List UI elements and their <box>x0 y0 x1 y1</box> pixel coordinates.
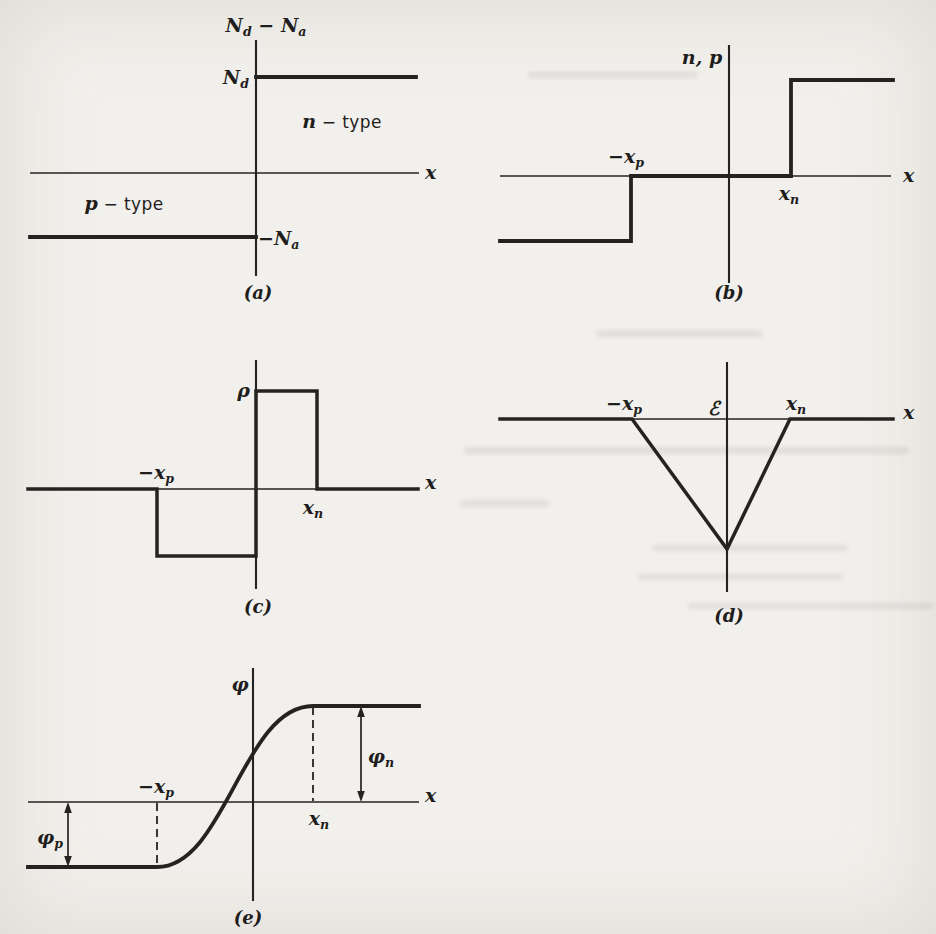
text-part: n <box>385 755 394 770</box>
text-part: φ <box>37 826 54 848</box>
panel-b-lines <box>500 45 893 283</box>
panel-e-lines <box>28 668 419 901</box>
arrowhead-up-icon <box>64 802 72 813</box>
b-step-curve <box>500 80 893 241</box>
text-part: n <box>314 506 323 521</box>
text-part: p <box>709 46 722 68</box>
text-part: n <box>320 817 329 832</box>
e-phi-n-label: φn <box>368 747 394 766</box>
text-part: n <box>682 46 696 68</box>
a-n-type-region-label: n − type <box>302 112 382 131</box>
b-yaxis-title: n, p <box>682 48 722 67</box>
text-part: p <box>84 192 97 214</box>
a-xaxis-label: x <box>425 163 436 182</box>
text-part: x <box>779 182 790 204</box>
b-xaxis-label: x <box>903 166 914 185</box>
text-part: N <box>223 66 240 88</box>
a-na-level-label: −Na <box>258 229 299 248</box>
text-part: −x <box>608 145 635 167</box>
text-part: − type <box>98 194 164 214</box>
a-caption: (a) <box>244 284 273 302</box>
text-part: n <box>302 110 316 132</box>
e-xn-label: xn <box>309 809 329 828</box>
text-part: −x <box>606 392 633 414</box>
d-xn-label: xn <box>786 394 806 413</box>
text-part: n <box>790 192 799 207</box>
arrowhead-down-icon <box>357 791 365 802</box>
e-yaxis-title: φ <box>231 675 248 694</box>
c-xn-label: xn <box>303 498 323 517</box>
text-part: a <box>298 24 306 39</box>
text-part: N <box>281 14 298 36</box>
d-caption: (d) <box>714 607 744 625</box>
text-part: d <box>243 24 252 39</box>
text-part: φ <box>368 745 385 767</box>
d-field-symbol: ℰ <box>708 399 720 418</box>
e-xaxis-label: x <box>425 786 436 805</box>
a-p-type-region-label: p − type <box>84 194 163 213</box>
text-part: n <box>797 402 806 417</box>
b-xp-label: −xp <box>608 147 644 166</box>
text-part: p <box>633 402 642 417</box>
text-part: − <box>252 14 281 36</box>
text-part: −N <box>258 227 291 249</box>
e-xp-label: −xp <box>138 777 174 796</box>
a-nd-level-label: Nd <box>223 68 249 87</box>
text-part: a <box>291 237 299 252</box>
text-part: d <box>240 76 249 91</box>
d-xp-label: −xp <box>606 394 642 413</box>
text-part: N <box>226 14 243 36</box>
text-part: x <box>303 496 314 518</box>
d-field-curve <box>500 419 893 549</box>
c-xaxis-label: x <box>425 473 436 492</box>
text-part: x <box>309 807 320 829</box>
text-part: , <box>696 46 709 68</box>
panel-d-lines <box>500 362 893 592</box>
d-xaxis-label: x <box>903 403 914 422</box>
b-caption: (b) <box>714 284 744 302</box>
text-part: p <box>54 836 63 851</box>
text-part: −x <box>138 775 165 797</box>
b-xn-label: xn <box>779 184 799 203</box>
text-part: x <box>786 392 797 414</box>
text-part: −x <box>138 461 165 483</box>
e-phi-p-label: φp <box>37 828 63 847</box>
c-caption: (c) <box>244 598 272 616</box>
c-yaxis-title: ρ <box>237 381 250 400</box>
text-part: − type <box>316 112 382 132</box>
c-charge-curve <box>28 391 418 556</box>
text-part: p <box>635 155 644 170</box>
panel-c-lines <box>28 360 419 589</box>
c-xp-label: −xp <box>138 463 174 482</box>
a-yaxis-title: Nd − Na <box>226 16 307 35</box>
e-caption: (e) <box>234 909 263 927</box>
text-part: p <box>165 471 174 486</box>
text-part: p <box>165 785 174 800</box>
